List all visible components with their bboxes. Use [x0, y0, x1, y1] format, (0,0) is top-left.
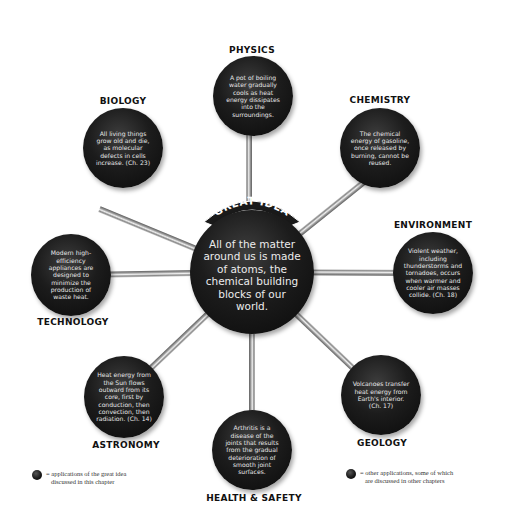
- label-geology: GEOLOGY: [357, 438, 407, 448]
- legend-left-text: = applications of the great idea discuss…: [46, 470, 126, 485]
- node-health-safety: Arthritis is a disease of the joints tha…: [212, 410, 292, 490]
- label-astronomy: ASTRONOMY: [92, 440, 160, 450]
- node-chemistry-text: The chemical energy of gasoline, once re…: [340, 130, 420, 166]
- legend-right-line2: are discussed in other chapters: [360, 477, 444, 484]
- node-environment: Violent weather, including thunderstorms…: [393, 232, 473, 314]
- node-geology: Volcanoes transfer heat energy from Eart…: [341, 355, 421, 435]
- legend-left-line1: = applications of the great idea: [46, 470, 126, 477]
- node-physics-text: A pot of boiling water gradually cools a…: [213, 74, 293, 118]
- node-astronomy-text: Heat energy from the Sun flows outward f…: [84, 371, 164, 422]
- legend-dot-icon: [346, 469, 356, 479]
- center-node-great-idea: All of the matter around us is made of a…: [190, 210, 314, 334]
- node-physics: A pot of boiling water gradually cools a…: [213, 56, 293, 136]
- label-physics: PHYSICS: [229, 45, 275, 55]
- legend-left-line2: discussed in this chapter: [46, 478, 114, 485]
- node-biology: All living things grow old and die, as m…: [83, 108, 163, 188]
- node-biology-text: All living things grow old and die, as m…: [83, 130, 163, 166]
- legend-dot-icon: [32, 470, 42, 480]
- node-astronomy: Heat energy from the Sun flows outward f…: [84, 356, 164, 438]
- legend-chapter-applications: = applications of the great idea discuss…: [32, 470, 126, 485]
- center-node-text: All of the matter around us is made of a…: [190, 238, 314, 313]
- node-environment-text: Violent weather, including thunderstorms…: [393, 247, 473, 298]
- node-technology-text: Modern high-efficiency appliances are de…: [31, 249, 111, 300]
- legend-other-applications: = other applications, some of which are …: [346, 469, 453, 484]
- label-environment: ENVIRONMENT: [394, 220, 472, 230]
- label-technology: TECHNOLOGY: [37, 317, 108, 327]
- node-health-safety-text: Arthritis is a disease of the joints tha…: [212, 424, 292, 475]
- node-chemistry: The chemical energy of gasoline, once re…: [340, 108, 420, 188]
- label-health-safety: HEALTH & SAFETY: [206, 493, 302, 503]
- great-idea-diagram: GREAT IDEA All of the matter around us i…: [0, 0, 508, 516]
- node-technology: Modern high-efficiency appliances are de…: [31, 234, 111, 316]
- node-geology-text: Volcanoes transfer heat energy from Eart…: [341, 380, 421, 409]
- label-biology: BIOLOGY: [100, 96, 147, 106]
- label-chemistry: CHEMISTRY: [350, 95, 411, 105]
- legend-right-line1: = other applications, some of which: [360, 469, 453, 476]
- legend-right-text: = other applications, some of which are …: [360, 469, 453, 484]
